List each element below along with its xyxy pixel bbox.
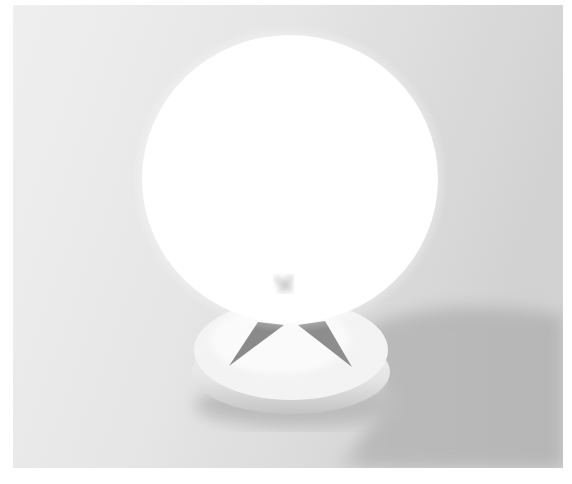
lamp-photo — [13, 5, 563, 468]
lamp-scene — [13, 5, 563, 468]
